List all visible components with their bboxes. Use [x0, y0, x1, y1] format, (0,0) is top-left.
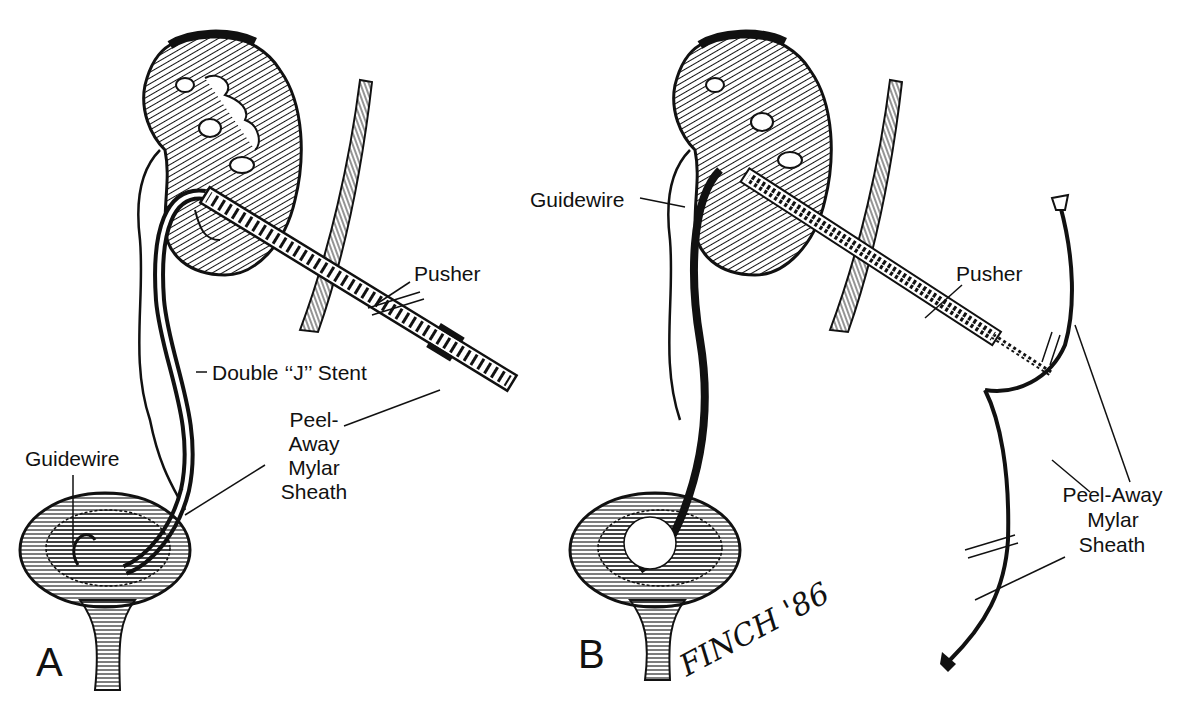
- label-sheath-b-line2: Mylar: [1075, 508, 1151, 531]
- label-double-j-stent: Double ‘‘J’’ Stent: [212, 361, 367, 384]
- illustration-canvas: [0, 0, 1185, 721]
- label-sheath-a-line4: Sheath: [272, 480, 356, 503]
- peel-away-sheath-upper: [985, 205, 1072, 391]
- label-guidewire-a: Guidewire: [25, 447, 120, 470]
- panel-letter-a: A: [36, 640, 63, 685]
- label-sheath-a-line3: Mylar: [276, 456, 352, 479]
- label-guidewire-b: Guidewire: [530, 188, 625, 211]
- label-pusher-b: Pusher: [956, 262, 1023, 285]
- label-sheath-b-line3: Sheath: [1070, 533, 1154, 556]
- body-wall-b: [830, 80, 902, 332]
- label-sheath-a-line2: Away: [281, 432, 347, 455]
- panel-b: [570, 34, 1130, 680]
- peel-away-sheath-lower: [950, 390, 1008, 660]
- label-sheath-a-line1: Peel-: [281, 408, 347, 431]
- panel-letter-b: B: [578, 632, 605, 677]
- label-pusher-a: Pusher: [414, 262, 481, 285]
- label-sheath-b-line1: Peel-Away: [1055, 483, 1170, 506]
